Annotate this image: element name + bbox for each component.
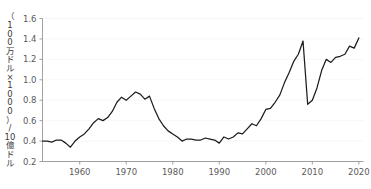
x-tick-label: 2010 [302,167,324,177]
x-tick-label: 2000 [255,167,277,177]
y-tick-label: 1.4 [23,34,37,44]
chart-container: 0.20.40.60.81.01.21.41.6 196019701980199… [0,0,371,189]
y-tick-label: 0.6 [23,116,37,126]
y-tick-label: 1.2 [23,54,37,64]
y-tick-label: 0.4 [23,136,37,146]
y-axis-label-char: ル [6,158,15,168]
line-chart: 0.20.40.60.81.01.21.41.6 196019701980199… [0,0,371,189]
x-tick-label: 1980 [162,167,184,177]
x-tick-label: 2020 [348,167,370,177]
x-tick-label: 1960 [69,167,91,177]
y-tick-label: 0.8 [23,95,37,105]
y-tick-label: 1.0 [23,75,37,85]
y-tick-label: 1.6 [23,14,37,24]
x-tick-label: 1970 [115,167,137,177]
chart-background [0,0,371,189]
x-tick-label: 1990 [208,167,230,177]
y-tick-label: 0.2 [23,157,37,167]
